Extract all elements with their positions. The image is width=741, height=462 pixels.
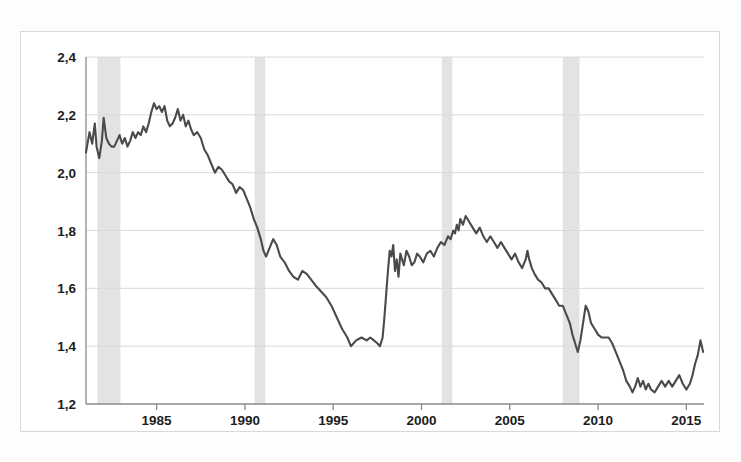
line-chart: 1,21,41,61,82,02,22,4 198519901995200020… <box>21 32 719 431</box>
x-tick-label: 2010 <box>583 413 613 428</box>
y-tick-label: 1,6 <box>57 281 76 296</box>
x-tick-label: 2000 <box>406 413 436 428</box>
figure-root: 1,21,41,61,82,02,22,4 198519901995200020… <box>0 0 741 462</box>
y-tick-label: 2,4 <box>57 50 76 65</box>
y-tick-label: 1,4 <box>57 339 76 354</box>
y-tick-label: 2,2 <box>57 108 76 123</box>
plot-background-group <box>21 32 719 431</box>
x-tick-label: 1990 <box>230 413 260 428</box>
x-tick-label: 1985 <box>142 413 173 428</box>
y-tick-label: 1,2 <box>57 397 76 412</box>
y-tick-label: 1,8 <box>57 224 76 239</box>
plot-background <box>21 32 719 431</box>
x-tick-label: 2015 <box>671 413 702 428</box>
y-tick-label: 2,0 <box>57 166 76 181</box>
x-tick-label: 2005 <box>495 413 526 428</box>
x-tick-label: 1995 <box>318 413 349 428</box>
figure-frame: 1,21,41,61,82,02,22,4 198519901995200020… <box>20 31 720 432</box>
